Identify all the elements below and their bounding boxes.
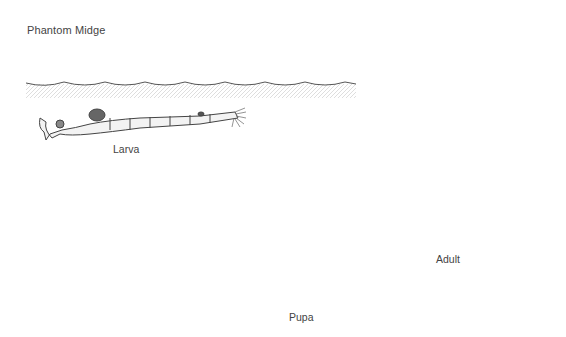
larva-label: Larva (113, 143, 139, 155)
water-surface (26, 82, 356, 98)
phantom-midge-diagram: Phantom Midge (0, 0, 566, 337)
pupa-label: Pupa (289, 311, 314, 323)
larva-illustration (40, 108, 247, 140)
illustration (0, 0, 566, 337)
adult-label: Adult (436, 253, 460, 265)
